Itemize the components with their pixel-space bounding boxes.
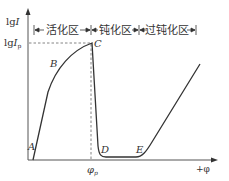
point-c-label: C [94,38,102,49]
region-label-transpassive: 过钝化区 [145,23,189,37]
region-label-active: 活化区 [46,23,79,37]
y-axis-label: lgI [6,16,21,27]
y-axis-arrow-icon [26,8,31,15]
region-label-passive: 钝化区 [99,23,132,37]
x-axis-label: +φ [196,164,210,174]
point-d-label: D [100,144,109,155]
point-a-label: A [27,141,35,152]
polarization-curve [33,43,200,160]
y-tick-lgip: lgIp [4,37,22,50]
x-axis-arrow-icon [211,158,218,163]
polarization-diagram: lgI lgIp 活化区 钝化区 过钝化区 A B C D E φp +φ [0,0,229,181]
x-tick-phip: φp [87,164,98,177]
point-b-label: B [49,58,57,69]
point-e-label: E [135,144,144,155]
